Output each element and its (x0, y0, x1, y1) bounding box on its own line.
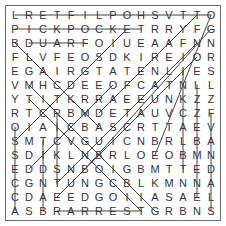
letter-cell[interactable]: R (50, 106, 64, 120)
letter-cell[interactable]: R (8, 106, 22, 120)
letter-cell[interactable]: L (8, 8, 22, 22)
letter-cell[interactable]: D (92, 106, 106, 120)
letter-cell[interactable]: G (78, 64, 92, 78)
letter-cell[interactable]: D (36, 162, 50, 176)
letter-cell[interactable]: D (22, 162, 36, 176)
letter-cell[interactable]: H (36, 78, 50, 92)
letter-cell[interactable]: A (8, 204, 22, 218)
letter-cell[interactable]: D (106, 50, 120, 64)
letter-cell[interactable]: R (22, 8, 36, 22)
letter-cell[interactable]: S (120, 204, 134, 218)
letter-cell[interactable]: A (92, 120, 106, 134)
letter-cell[interactable]: T (134, 22, 148, 36)
letter-cell[interactable]: T (162, 120, 176, 134)
letter-cell[interactable]: O (92, 162, 106, 176)
letter-cell[interactable]: S (204, 204, 218, 218)
letter-cell[interactable]: B (190, 134, 204, 148)
letter-cell[interactable]: T (50, 8, 64, 22)
letter-cell[interactable]: V (64, 134, 78, 148)
letter-cell[interactable]: Y (176, 22, 190, 36)
letter-cell[interactable]: U (148, 106, 162, 120)
letter-cell[interactable]: C (92, 22, 106, 36)
letter-cell[interactable]: A (64, 204, 78, 218)
letter-cell[interactable]: B (78, 120, 92, 134)
letter-cell[interactable]: R (204, 50, 218, 64)
letter-cell[interactable]: S (8, 148, 22, 162)
letter-cell[interactable]: S (204, 64, 218, 78)
letter-cell[interactable]: N (204, 36, 218, 50)
letter-cell[interactable]: I (176, 64, 190, 78)
letter-cell[interactable]: P (8, 22, 22, 36)
letter-cell[interactable]: F (78, 36, 92, 50)
letter-cell[interactable]: I (134, 190, 148, 204)
letter-cell[interactable]: C (120, 134, 134, 148)
letter-cell[interactable]: D (64, 78, 78, 92)
letter-cell[interactable]: R (148, 22, 162, 36)
letter-cell[interactable]: O (78, 50, 92, 64)
letter-cell[interactable]: D (22, 148, 36, 162)
letter-cell[interactable]: V (162, 8, 176, 22)
letter-cell[interactable]: A (36, 120, 50, 134)
letter-cell[interactable]: T (92, 64, 106, 78)
letter-cell[interactable]: A (106, 92, 120, 106)
letter-cell[interactable]: E (120, 92, 134, 106)
letter-cell[interactable]: O (106, 78, 120, 92)
letter-cell[interactable]: N (190, 176, 204, 190)
letter-cell[interactable]: L (176, 134, 190, 148)
letter-cell[interactable]: C (8, 176, 22, 190)
letter-cell[interactable]: R (78, 92, 92, 106)
letter-cell[interactable]: B (134, 162, 148, 176)
letter-cell[interactable]: P (64, 22, 78, 36)
letter-cell[interactable]: T (190, 8, 204, 22)
letter-cell[interactable]: L (204, 190, 218, 204)
letter-cell[interactable]: K (148, 176, 162, 190)
letter-cell[interactable]: B (64, 106, 78, 120)
letter-cell[interactable]: R (134, 120, 148, 134)
letter-cell[interactable]: M (162, 176, 176, 190)
letter-cell[interactable]: B (92, 148, 106, 162)
letter-cell[interactable]: V (36, 50, 50, 64)
letter-cell[interactable]: E (106, 204, 120, 218)
letter-cell[interactable]: B (78, 162, 92, 176)
letter-cell[interactable]: T (120, 106, 134, 120)
letter-cell[interactable]: D (22, 190, 36, 204)
letter-cell[interactable]: I (120, 190, 134, 204)
letter-cell[interactable]: N (36, 176, 50, 190)
letter-cell[interactable]: R (64, 36, 78, 50)
letter-cell[interactable]: C (176, 106, 190, 120)
letter-cell[interactable]: I (78, 8, 92, 22)
letter-cell[interactable]: I (36, 92, 50, 106)
letter-cell[interactable]: B (176, 204, 190, 218)
letter-cell[interactable]: E (190, 64, 204, 78)
letter-cell[interactable]: N (64, 162, 78, 176)
letter-cell[interactable]: L (204, 78, 218, 92)
letter-cell[interactable]: S (92, 50, 106, 64)
letter-cell[interactable]: U (64, 176, 78, 190)
letter-cell[interactable]: T (50, 176, 64, 190)
letter-cell[interactable]: G (92, 176, 106, 190)
letter-cell[interactable]: O (134, 148, 148, 162)
letter-cell[interactable]: G (148, 204, 162, 218)
letter-cell[interactable]: T (176, 162, 190, 176)
letter-cell[interactable]: K (50, 148, 64, 162)
letter-cell[interactable]: O (78, 22, 92, 36)
letter-cell[interactable]: A (148, 78, 162, 92)
letter-cell[interactable]: O (8, 120, 22, 134)
letter-cell[interactable]: N (78, 148, 92, 162)
letter-cell[interactable]: F (64, 8, 78, 22)
letter-cell[interactable]: A (50, 36, 64, 50)
letter-cell[interactable]: G (120, 162, 134, 176)
letter-cell[interactable]: A (134, 106, 148, 120)
letter-cell[interactable]: T (148, 120, 162, 134)
letter-cell[interactable]: O (190, 50, 204, 64)
letter-cell[interactable]: V (8, 78, 22, 92)
letter-cell[interactable]: O (204, 8, 218, 22)
letter-cell[interactable]: A (106, 64, 120, 78)
letter-cell[interactable]: E (162, 50, 176, 64)
letter-cell[interactable]: E (8, 162, 22, 176)
letter-cell[interactable]: Y (8, 92, 22, 106)
letter-cell[interactable]: N (190, 36, 204, 50)
letter-cell[interactable]: G (22, 64, 36, 78)
letter-cell[interactable]: C (134, 78, 148, 92)
letter-cell[interactable]: A (36, 190, 50, 204)
